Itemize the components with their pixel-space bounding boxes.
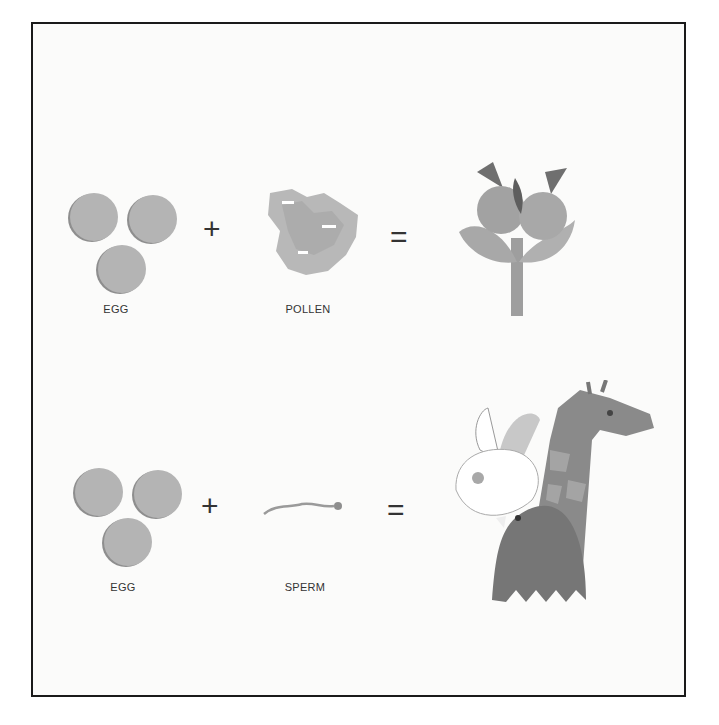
egg-cell-icon (70, 193, 118, 241)
equals-sign: = (387, 495, 405, 525)
equals-sign: = (390, 222, 408, 252)
egg-cell-icon (104, 518, 152, 566)
plus-sign: + (203, 214, 221, 244)
egg-cell-icon (98, 245, 146, 293)
egg-cell-icon (75, 468, 123, 516)
egg-label: EGG (83, 581, 163, 593)
pollen-icon (262, 185, 367, 285)
pollen-label: POLLEN (268, 303, 348, 315)
egg-cell-icon (129, 195, 177, 243)
plus-sign: + (201, 491, 219, 521)
sperm-label: SPERM (265, 581, 345, 593)
sperm-icon (262, 498, 347, 518)
egg-cell-icon (134, 470, 182, 518)
flower-icon (455, 158, 585, 318)
egg-label: EGG (76, 303, 156, 315)
animals-icon (440, 380, 660, 610)
